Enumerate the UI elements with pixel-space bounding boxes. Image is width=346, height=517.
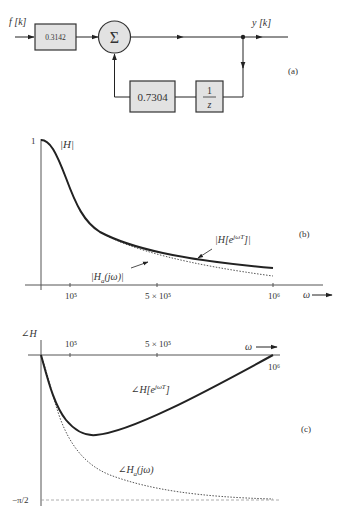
phase-plot: ∠H 10⁵ 5 × 10⁵ 10⁶ ω −π/2 ∠H[ejωT] ∠Ha(j…: [12, 328, 311, 506]
phase-analog-label: ∠Ha(jω): [118, 464, 154, 478]
panel-label-c: (c): [301, 424, 311, 434]
panel-label-b: (b): [299, 229, 310, 239]
phase-y-tick-minus-pi-half: −π/2: [12, 495, 29, 505]
input-label: f [k]: [9, 16, 27, 27]
phase-analog-curve: [41, 355, 273, 499]
mag-discrete-curve: [41, 140, 273, 268]
mag-x-label: ω: [303, 289, 310, 300]
mag-analog-curve: [41, 140, 273, 276]
mag-x-tick-1e5: 10⁵: [65, 291, 77, 301]
phase-discrete-curve: [41, 355, 273, 435]
phase-x-tick-5e5: 5 × 10⁵: [145, 339, 171, 349]
feedback-gain-value: 0.7304: [137, 91, 168, 103]
magnitude-plot: 1 |H| 10⁵ 5 × 10⁵ 10⁶ ω |H[ejωT]| |Ha(jω…: [25, 136, 332, 301]
mag-y-tick-1: 1: [31, 136, 36, 146]
summer-symbol: Σ: [110, 29, 119, 46]
delay-denominator: z: [207, 99, 212, 110]
gain-block-value: 0.3142: [45, 33, 66, 42]
phase-x-label: ω: [245, 341, 252, 352]
panel-label-a: (a): [288, 66, 298, 76]
mag-analog-label: |Ha(jω)|: [91, 271, 124, 285]
block-diagram: f [k] 0.3142 Σ y [k] 1 z 0.7304 (a): [9, 16, 298, 112]
mag-y-label: |H|: [60, 138, 74, 150]
phase-y-label: ∠H: [21, 328, 37, 339]
delay-numerator: 1: [207, 85, 212, 96]
figure-canvas: f [k] 0.3142 Σ y [k] 1 z 0.7304 (a) 1: [0, 0, 346, 517]
phase-x-tick-1e5: 10⁵: [65, 339, 77, 349]
phase-x-tick-1e6: 10⁶: [268, 362, 280, 372]
mag-x-tick-5e5: 5 × 10⁵: [145, 291, 171, 301]
mag-discrete-label: |H[ejωT]|: [215, 233, 251, 245]
mag-x-tick-1e6: 10⁶: [268, 291, 280, 301]
phase-discrete-label: ∠H[ejωT]: [131, 383, 170, 395]
output-label: y [k]: [251, 17, 271, 28]
